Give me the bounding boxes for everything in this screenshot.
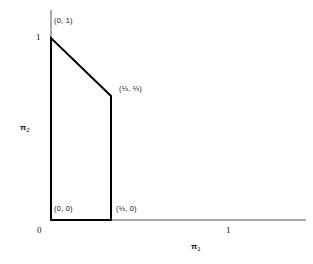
x-axis-title: π1	[191, 243, 200, 251]
y-axis-title: π2	[20, 124, 29, 132]
y-axis-title-subscript: 2	[26, 127, 29, 133]
x-axis-tick-label-1: 1	[226, 226, 231, 235]
figure-root: (0, 1) (⅓, ⅔) (0, 0) (⅓, 0) 1 0 1 π2 π1	[0, 0, 313, 264]
vertex-label-0-1: (0, 1)	[54, 17, 73, 25]
y-axis-tick-label-1: 1	[36, 33, 41, 42]
vertex-label-one-third-zero: (⅓, 0)	[116, 205, 137, 213]
x-axis-tick-label-0: 0	[37, 226, 42, 235]
x-axis-title-subscript: 1	[197, 246, 200, 252]
plot-canvas	[0, 0, 313, 264]
vertex-label-one-third-two-thirds: (⅓, ⅔)	[119, 85, 142, 93]
vertex-label-origin: (0, 0)	[54, 205, 73, 213]
plot-background	[0, 0, 313, 264]
